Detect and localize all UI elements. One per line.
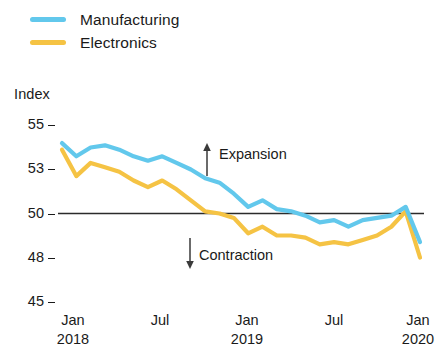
x-tick-year: 2020 xyxy=(402,330,434,349)
plot-area xyxy=(0,0,437,353)
x-tick-month: Jan xyxy=(235,312,258,328)
annotation-contraction: Contraction xyxy=(199,247,273,263)
chart-container: Manufacturing Electronics Index 55 53 50… xyxy=(0,0,437,353)
x-tick-jan-2019: Jan 2019 xyxy=(231,311,263,349)
x-tick-year: 2019 xyxy=(231,330,263,349)
x-tick-jul-2019: Jul xyxy=(325,311,344,330)
x-tick-jul-2018: Jul xyxy=(151,311,170,330)
annotation-expansion: Expansion xyxy=(219,146,287,162)
x-tick-year: 2018 xyxy=(57,330,89,349)
x-tick-month: Jan xyxy=(61,312,84,328)
x-tick-month: Jul xyxy=(151,312,170,328)
x-tick-month: Jan xyxy=(406,312,429,328)
series-line-electronics xyxy=(62,150,420,258)
x-tick-jan-2020: Jan 2020 xyxy=(402,311,434,349)
x-tick-jan-2018: Jan 2018 xyxy=(57,311,89,349)
x-tick-month: Jul xyxy=(325,312,344,328)
